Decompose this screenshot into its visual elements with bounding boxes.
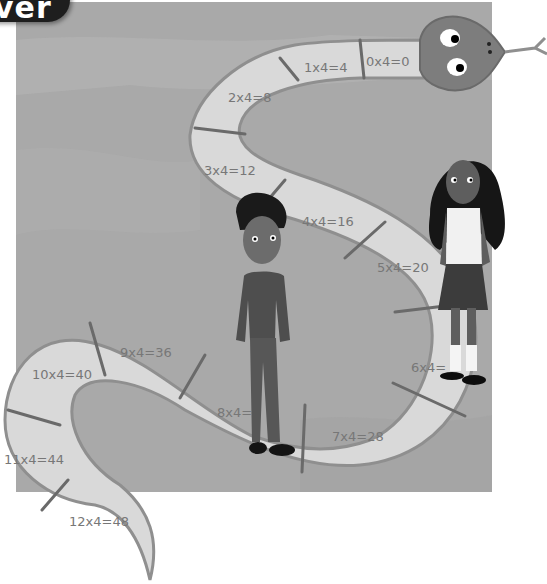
segment-label-12: 12x4=48: [69, 514, 129, 529]
segment-label-6: 6x4=: [411, 360, 446, 375]
segment-label-5: 5x4=20: [377, 260, 429, 275]
snake-tongue: [505, 38, 547, 54]
section-header-tab: ver: [0, 0, 70, 22]
girl-skirt: [438, 264, 488, 310]
segment-label-11: 11x4=44: [4, 452, 64, 467]
snake-nostril: [487, 42, 491, 46]
boy-shoe-right: [269, 444, 295, 456]
segment-label-3: 3x4=12: [204, 163, 256, 178]
times-table-snake-illustration: ver 0x4=0 1x4=4 2x4=8: [0, 0, 547, 584]
segment-label-0: 0x4=0: [366, 54, 409, 69]
boy-sweater: [236, 272, 290, 343]
girl-leg-right: [467, 308, 476, 350]
segment-label-2: 2x4=8: [228, 90, 271, 105]
girl-face: [446, 160, 480, 204]
boy-shoe-left: [249, 442, 267, 454]
segment-label-8: 8x4=: [217, 405, 252, 420]
girl-shoe-right: [462, 375, 486, 385]
girl-sock-right: [466, 345, 477, 371]
girl-sock-left: [450, 345, 461, 371]
segment-label-4: 4x4=16: [302, 214, 354, 229]
girl-shoe-left: [440, 372, 464, 380]
girl-leg-left: [451, 308, 460, 350]
scene-canvas: 0x4=0 1x4=4 2x4=8 3x4=12 4x4=16 5x4=20 6…: [0, 0, 547, 584]
segment-label-10: 10x4=40: [32, 367, 92, 382]
girl-blouse: [446, 208, 482, 266]
segment-label-1: 1x4=4: [304, 60, 347, 75]
segment-label-9: 9x4=36: [120, 345, 172, 360]
section-header-label: ver: [0, 0, 52, 25]
segment-label-7: 7x4=28: [332, 429, 384, 444]
boy-face: [243, 216, 281, 264]
snake-head: [420, 17, 547, 91]
